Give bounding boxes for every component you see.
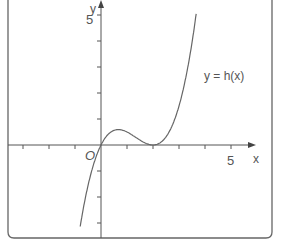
function-graph: y 5 x 5 O y = h(x): [0, 0, 281, 242]
chart-frame: [8, 0, 272, 238]
origin-label: O: [85, 148, 95, 163]
y-axis-arrow-icon: [98, 0, 104, 8]
x-axis-arrow-icon: [248, 142, 256, 148]
axis-ticks: [23, 15, 231, 223]
y-tick-label-5: 5: [86, 12, 93, 27]
chart-container: y 5 x 5 O y = h(x): [0, 0, 281, 242]
x-tick-label-5: 5: [227, 153, 234, 168]
curve-h-of-x: [80, 14, 196, 227]
curve-label: y = h(x): [204, 69, 244, 83]
x-axis-label: x: [253, 152, 259, 166]
